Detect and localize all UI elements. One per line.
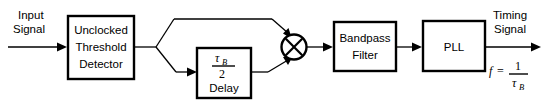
threshold-detector-label-line2: Threshold bbox=[75, 41, 126, 53]
delay-denominator: 2 bbox=[219, 67, 225, 81]
block-diagram: Input Signal Unclocked Threshold Detecto… bbox=[0, 0, 549, 105]
output-arrowhead bbox=[531, 43, 541, 52]
bottom-branch-wire bbox=[156, 47, 197, 77]
pll-input-arrowhead bbox=[412, 43, 422, 52]
diagram-canvas: Input Signal Unclocked Threshold Detecto… bbox=[0, 0, 549, 105]
timing-signal-label-line2: Signal bbox=[494, 23, 526, 35]
multiplier-symbol[interactable] bbox=[282, 35, 307, 60]
timing-signal-label-line1: Timing bbox=[493, 9, 527, 21]
input-signal-label-line2: Signal bbox=[13, 23, 45, 35]
threshold-detector-label-line1: Unclocked bbox=[74, 24, 128, 36]
equation-lhs: f bbox=[489, 64, 494, 78]
delay-label: Delay bbox=[209, 82, 239, 94]
bandpass-input-arrowhead bbox=[323, 43, 333, 52]
equation-numerator: 1 bbox=[515, 59, 521, 73]
bandpass-to-pll-wire bbox=[396, 43, 422, 52]
pll-label: PLL bbox=[444, 41, 465, 53]
delay-numerator: τ bbox=[215, 51, 220, 65]
output-wire bbox=[485, 43, 541, 52]
delay-input-arrowhead bbox=[187, 68, 197, 77]
top-branch-wire bbox=[156, 19, 292, 47]
threshold-detector-label-line3: Detector bbox=[79, 58, 123, 70]
equation-equals-sign: = bbox=[497, 64, 504, 78]
equation-denominator-subscript: B bbox=[519, 82, 524, 92]
bandpass-filter-label-line2: Filter bbox=[352, 49, 378, 61]
mixer-to-bandpass-wire bbox=[307, 43, 333, 52]
block-bandpass-filter[interactable] bbox=[334, 22, 396, 71]
equation-denominator: τ bbox=[512, 76, 517, 90]
input-signal-label-line1: Input bbox=[18, 9, 44, 21]
input-arrowhead bbox=[57, 43, 67, 52]
bandpass-filter-label-line1: Bandpass bbox=[339, 32, 390, 44]
output-frequency-equation: f = 1 τ B bbox=[489, 59, 528, 92]
input-wire bbox=[8, 43, 67, 52]
